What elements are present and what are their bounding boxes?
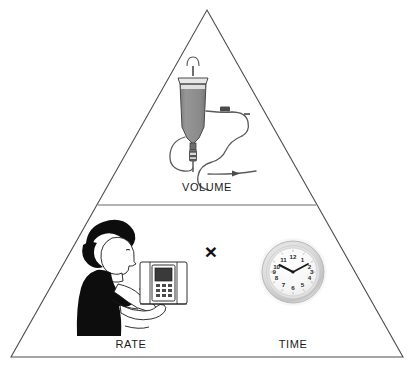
iv-tubing-icon [198, 107, 256, 191]
svg-text:5: 5 [301, 281, 305, 288]
pump-display-screen [155, 268, 172, 281]
wall-clock-icon: 12 1 2 3 4 5 6 7 8 9 10 11 [259, 238, 327, 306]
iv-bag-icon [170, 57, 208, 172]
clock-center-pin [291, 270, 294, 273]
time-label: TIME [279, 338, 308, 350]
flow-direction-arrow-icon [232, 171, 240, 177]
rate-label: RATE [116, 338, 147, 350]
svg-text:4: 4 [308, 274, 312, 281]
iv-hanger-icon [187, 57, 199, 66]
infusion-pump-icon [140, 262, 187, 304]
pump-keypad-icon [156, 284, 172, 297]
svg-text:11: 11 [280, 256, 287, 263]
volume-label: VOLUME [182, 181, 232, 193]
iv-bag-body [180, 84, 206, 144]
svg-text:7: 7 [282, 281, 286, 288]
inline-clamp-icon [220, 107, 230, 112]
svg-text:6: 6 [291, 284, 295, 291]
svg-text:8: 8 [275, 274, 279, 281]
svg-text:12: 12 [290, 253, 297, 260]
iv-calculation-pyramid-figure: 12 1 2 3 4 5 6 7 8 9 10 11 VOLUME RATE T… [0, 0, 414, 367]
multiplication-symbol: × [205, 241, 217, 262]
svg-text:1: 1 [301, 256, 305, 263]
nurse-torso-icon [77, 270, 133, 336]
